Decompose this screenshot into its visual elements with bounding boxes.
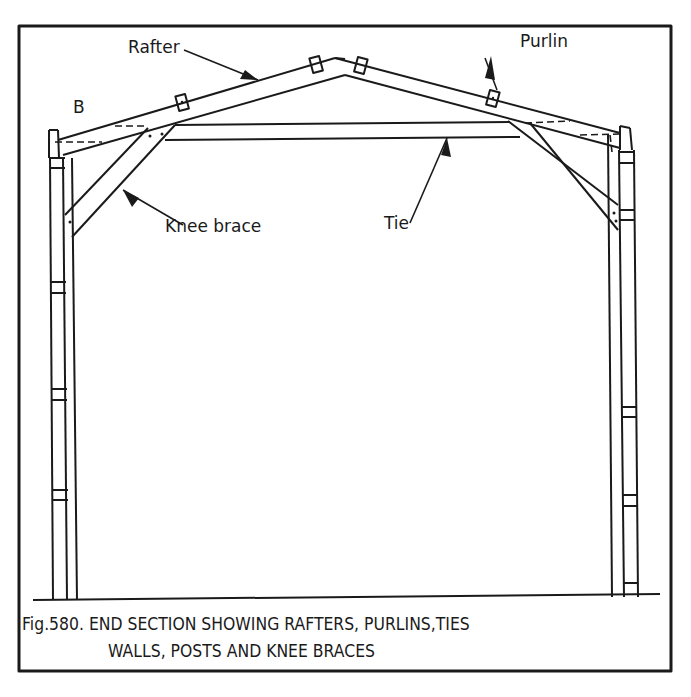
arrowheads [123,56,495,207]
label-purlin: Purlin [520,31,568,51]
caption-line-2: WALLS, POSTS AND KNEE BRACES [108,641,375,661]
right-rafter [335,58,620,148]
tie-beam [165,122,520,140]
left-post [49,130,77,600]
label-rafter: Rafter [128,37,180,57]
label-knee-brace: Knee brace [165,216,261,236]
caption-line-1: Fig.580. END SECTION SHOWING RAFTERS, PU… [22,614,470,634]
label-tie: Tie [384,213,409,233]
ground-line [33,594,660,600]
label-b: B [73,97,85,117]
right-post [608,126,638,597]
end-section-diagram [0,0,691,697]
right-knee-brace [508,121,618,230]
